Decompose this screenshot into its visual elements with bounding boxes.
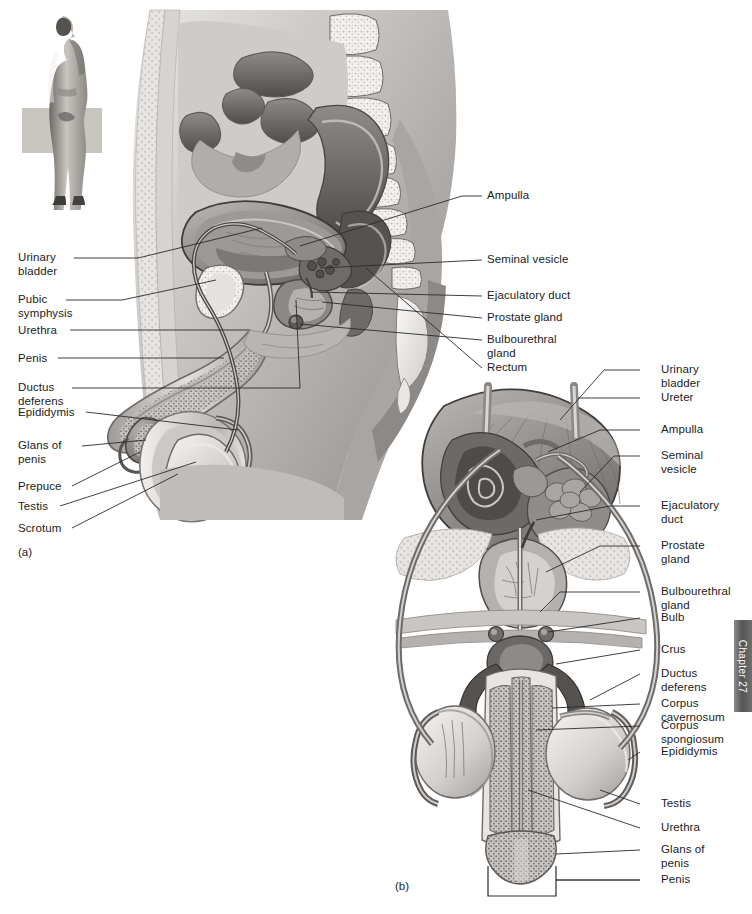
label-ampulla-a: Ampulla <box>487 189 529 203</box>
label-urinary-bladder-b: Urinary bladder <box>661 363 700 390</box>
label-penis-a: Penis <box>18 352 47 366</box>
figure-canvas <box>0 0 752 914</box>
panel-b-illustration <box>396 386 657 884</box>
label-pubic-symphysis-a: Pubic symphysis <box>18 293 73 320</box>
label-penis-b: Penis <box>661 873 690 887</box>
label-prostate-gland-b: Prostate gland <box>661 539 705 566</box>
label-ejaculatory-duct-a: Ejaculatory duct <box>487 289 570 303</box>
panel-tag-a: (a) <box>18 546 32 558</box>
label-corpus-spongiosum-b: Corpus spongiosum <box>661 719 724 746</box>
chapter-tab-label: Chapter 27 <box>738 639 749 692</box>
label-testis-b: Testis <box>661 797 691 811</box>
panel-tag-b: (b) <box>395 880 409 892</box>
label-seminal-vesicle-b: Seminal vesicle <box>661 449 703 476</box>
label-crus-b: Crus <box>661 643 686 657</box>
label-urethra-a: Urethra <box>18 324 57 338</box>
label-ejaculatory-duct-b: Ejaculatory duct <box>661 499 719 526</box>
label-prepuce-a: Prepuce <box>18 480 62 494</box>
label-epididymis-b: Epididymis <box>661 745 718 759</box>
label-prostate-gland-a: Prostate gland <box>487 311 563 325</box>
label-seminal-vesicle-a: Seminal vesicle <box>487 253 568 267</box>
label-ureter-b: Ureter <box>661 391 694 405</box>
orientation-figure-wrapper <box>22 12 106 212</box>
label-scrotum-a: Scrotum <box>18 522 62 536</box>
label-bulbourethral-gland-a: Bulbourethral gland <box>487 333 557 360</box>
label-glans-of-penis-b: Glans of penis <box>661 843 705 870</box>
panel-a-illustration <box>108 8 463 522</box>
label-glans-of-penis-a: Glans of penis <box>18 439 62 466</box>
label-ampulla-b: Ampulla <box>661 423 703 437</box>
label-ductus-deferens-b: Ductus deferens <box>661 667 707 694</box>
label-urethra-b: Urethra <box>661 821 700 835</box>
label-bulb-b: Bulb <box>661 611 684 625</box>
chapter-tab: Chapter 27 <box>734 620 752 712</box>
label-epididymis-a: Epididymis <box>18 406 75 420</box>
label-ductus-deferens-a: Ductus deferens <box>18 381 64 408</box>
label-bulbourethral-gland-b: Bulbourethral gland <box>661 585 731 612</box>
label-rectum-a: Rectum <box>487 361 527 375</box>
label-urinary-bladder-a: Urinary bladder <box>18 251 57 278</box>
label-testis-a: Testis <box>18 500 48 514</box>
